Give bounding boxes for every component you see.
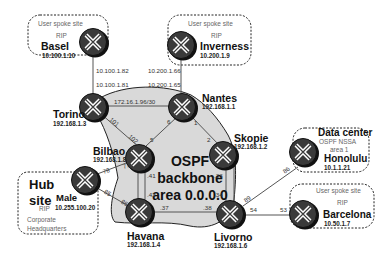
backbone-label-line1: OSPF bbox=[150, 153, 230, 170]
router-addr-inverness: 10.200.1.9 bbox=[200, 53, 230, 59]
router-name-inverness: Inverness bbox=[200, 41, 249, 52]
router-inverness[interactable] bbox=[168, 32, 198, 61]
router-basel[interactable] bbox=[80, 29, 110, 58]
router-addr-basel: 10.100.1.10 bbox=[42, 53, 75, 59]
link-label-livorno-barcelona-a: 54 bbox=[250, 207, 257, 213]
inverness-site-protocol: RIP bbox=[211, 33, 222, 40]
link-label-nantes-bilbao-b: 5 bbox=[150, 137, 153, 143]
router-addr-havana: 192.168.1.4 bbox=[127, 242, 160, 248]
router-addr-nantes: 192.168.1.1 bbox=[202, 104, 235, 110]
link-label-inverness: 10.200.1.66 bbox=[148, 68, 181, 74]
router-name-livorno: Livorno bbox=[214, 232, 253, 243]
router-addr-male: 10.255.100.20 bbox=[55, 205, 95, 211]
barcelona-site-type: User spoke site bbox=[316, 188, 361, 195]
link-label-nantes-bilbao-a: 6 bbox=[167, 119, 170, 125]
router-name-torino: Torino bbox=[53, 109, 85, 120]
basel-site-type: User spoke site bbox=[38, 21, 83, 28]
basel-site-protocol: RIP bbox=[56, 33, 67, 40]
router-addr-livorno: 192.168.1.6 bbox=[214, 243, 247, 249]
router-addr-torino: 192.168.1.3 bbox=[53, 121, 86, 127]
router-name-skopie: Skopie bbox=[234, 133, 268, 144]
link-label-havana-livorno-a: .37 bbox=[160, 205, 169, 211]
hub-site-protocol: RIP bbox=[39, 206, 50, 213]
link-label-nantes-skopie-a: 1 bbox=[194, 120, 197, 126]
link-label-skopie-livorno-a: .33 bbox=[214, 173, 223, 179]
link-label-torino-up: 10.100.1.81 bbox=[96, 82, 129, 88]
hub-site-note2: Headquarters bbox=[27, 226, 66, 233]
link-label-basel: 10.100.1.82 bbox=[96, 68, 129, 74]
link-label-nantes-up: 10.200.1.65 bbox=[148, 82, 181, 88]
router-addr-barcelona: 10.50.1.7 bbox=[324, 221, 350, 227]
link-label-torino-nantes: 172.16.1.96/30 bbox=[114, 99, 155, 105]
router-name-bilbao: Bilbao bbox=[93, 146, 125, 157]
router-livorno[interactable] bbox=[217, 201, 247, 230]
link-label-nantes-skopie-b: 2 bbox=[207, 137, 210, 143]
router-name-havana: Havana bbox=[127, 231, 164, 242]
hub-site-title-line1: Hub bbox=[29, 177, 54, 193]
router-name-basel: Basel bbox=[41, 41, 69, 52]
barcelona-site-protocol: RIP bbox=[337, 200, 348, 207]
router-name-nantes: Nantes bbox=[202, 93, 237, 104]
datacenter-title: Data center bbox=[318, 128, 372, 138]
datacenter-protocol: OSPF NSSA bbox=[319, 139, 356, 146]
link-label-livorno-barcelona-b: 53 bbox=[280, 207, 287, 213]
link-label-skopie-livorno-b: .34 bbox=[214, 192, 223, 198]
router-addr-honolulu: 10.1.1.21 bbox=[324, 165, 350, 171]
inverness-site-type: User spoke site bbox=[188, 21, 233, 28]
hub-site-note1: Corporate bbox=[27, 217, 56, 224]
router-name-male: Male bbox=[56, 193, 77, 203]
router-name-barcelona: Barcelona bbox=[323, 210, 371, 220]
router-addr-skopie: 192.168.1.2 bbox=[234, 144, 267, 150]
router-name-honolulu: Honolulu bbox=[324, 154, 367, 164]
link-label-bilbao-havana-b: .42 bbox=[147, 192, 156, 198]
network-diagram: OSPF backbone area 0.0.0.0 User spoke si… bbox=[0, 0, 392, 258]
link-label-bilbao-havana-a: .41 bbox=[147, 173, 156, 179]
link-label-havana-livorno-b: .38 bbox=[203, 205, 212, 211]
